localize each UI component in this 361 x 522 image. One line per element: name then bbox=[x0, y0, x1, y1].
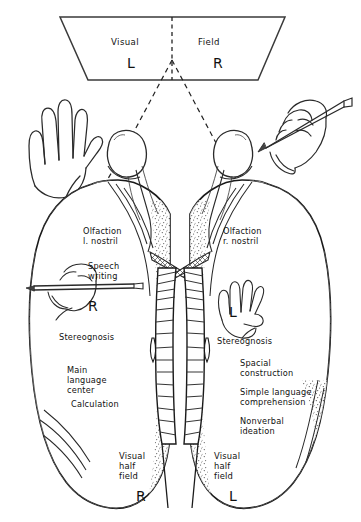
left-hand-open-icon bbox=[29, 100, 103, 198]
right-stereognosis: Stereognosis bbox=[217, 337, 272, 347]
left-hand-letter: R bbox=[88, 299, 98, 313]
eye-right-icon bbox=[214, 130, 253, 178]
right-nonverbal-line2: ideation bbox=[240, 427, 275, 437]
screen-label-visual: Visual bbox=[111, 38, 139, 48]
left-olfaction-line2: l. nostril bbox=[83, 237, 118, 247]
left-main-language-line3: center bbox=[67, 386, 95, 396]
right-simple-language-line2: comprehension bbox=[240, 398, 306, 408]
figure-canvas bbox=[0, 0, 361, 522]
screen-half-right-letter: R bbox=[213, 56, 223, 70]
screen-label-field: Field bbox=[198, 38, 220, 48]
left-speech-line2: writing bbox=[88, 272, 118, 282]
right-spacial-line2: construction bbox=[240, 369, 293, 379]
left-stereognosis: Stereognosis bbox=[59, 333, 114, 343]
right-visual-field-letter: L bbox=[229, 489, 237, 503]
right-visual-half-field-line3: field bbox=[214, 472, 233, 482]
right-olfaction-line2: r. nostril bbox=[223, 237, 258, 247]
visual-field-screen bbox=[60, 17, 285, 80]
screen-half-left-letter: L bbox=[127, 56, 135, 70]
left-visual-half-field-line3: field bbox=[119, 472, 138, 482]
left-calculation: Calculation bbox=[71, 400, 119, 410]
split-brain-figure: Visual Field L R Olfaction l. nostril Sp… bbox=[0, 0, 361, 522]
left-visual-field-letter: R bbox=[136, 489, 146, 503]
right-hand-pencil-icon bbox=[258, 98, 352, 174]
eye-left-icon bbox=[107, 130, 146, 178]
right-hand-letter: L bbox=[229, 305, 237, 319]
